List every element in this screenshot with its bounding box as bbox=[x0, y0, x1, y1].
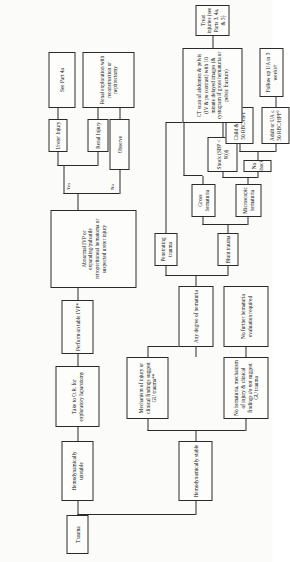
connector bbox=[184, 175, 203, 176]
node-hemodynamically-unstable[interactable]: Hemodynamically unstable bbox=[62, 441, 94, 501]
node-or-label: Take to O.R. for exploratory laparotomy bbox=[71, 368, 84, 425]
connector bbox=[78, 427, 79, 441]
connector bbox=[203, 224, 226, 225]
connector bbox=[148, 430, 226, 431]
connector bbox=[166, 123, 167, 233]
node-penetrating-label: Penetrating trauma bbox=[159, 235, 172, 264]
connector bbox=[148, 347, 149, 357]
connector bbox=[223, 123, 224, 137]
node-unstable-label: Hemodynamically unstable bbox=[71, 443, 84, 499]
connector bbox=[196, 276, 197, 286]
node-ureter-injury[interactable]: Ureter Injury bbox=[49, 119, 68, 152]
node-shock-label: Shock (SBP < 90)§ bbox=[216, 139, 225, 170]
connector bbox=[223, 172, 224, 178]
connector bbox=[196, 501, 197, 515]
node-no-further-evaluation[interactable]: No further hematuria evaluation required bbox=[224, 286, 226, 347]
connector bbox=[58, 108, 59, 119]
connector bbox=[78, 354, 79, 366]
node-mechanism-label: Mechanism of injury or clinical findings… bbox=[138, 359, 158, 417]
connector bbox=[78, 514, 196, 515]
node-mechanism-of-injury[interactable]: Mechanism of injury or clinical findings… bbox=[127, 357, 169, 419]
connector bbox=[203, 176, 204, 184]
node-renal-exploration[interactable]: Renal exploration with reconstruction or… bbox=[83, 52, 135, 108]
connector bbox=[64, 166, 65, 174]
node-stable-label: Hemodynamically stable bbox=[192, 445, 199, 498]
node-renal-exploration-label: Renal exploration with reconstruction or… bbox=[99, 54, 119, 106]
node-gross-hematuria[interactable]: Gross hematuria bbox=[192, 184, 216, 217]
connector bbox=[196, 431, 197, 441]
connector bbox=[78, 194, 79, 210]
node-trauma-label: Trauma bbox=[74, 526, 81, 542]
node-renal-injury[interactable]: Renal Injury bbox=[88, 119, 109, 152]
node-perform-on-table-ivp[interactable]: Perform on table IVP* bbox=[62, 300, 94, 354]
node-abnormal-ivp[interactable]: Abnormal IVP or expanding/pulsatile retr… bbox=[51, 210, 137, 288]
node-take-to-or[interactable]: Take to O.R. for exploratory laparotomy bbox=[56, 366, 100, 427]
node-see-part-4a[interactable]: See Part 4a bbox=[49, 52, 76, 108]
node-observe-label: Observe bbox=[116, 136, 123, 154]
node-blunt-trauma[interactable]: Blunt trauma bbox=[218, 233, 226, 266]
node-treat-label: Treat injuries (see Parts 3, 4a, & 5) bbox=[199, 7, 225, 34]
connector bbox=[203, 217, 204, 225]
connector bbox=[78, 288, 79, 300]
connector bbox=[98, 152, 99, 166]
connector bbox=[184, 123, 185, 176]
flowchart-canvas: Trauma Hemodynamically unstable Take to … bbox=[48, 0, 226, 562]
node-see-part-4a-label: See Part 4a bbox=[59, 68, 66, 92]
node-gross-label: Gross hematuria bbox=[197, 186, 210, 215]
connector bbox=[58, 152, 59, 166]
connector bbox=[196, 347, 197, 357]
connector bbox=[120, 170, 121, 194]
node-any-hematuria-label: Any degree of hematuria bbox=[193, 290, 200, 343]
node-observe[interactable]: Observe bbox=[110, 119, 130, 170]
connector bbox=[166, 122, 183, 123]
edge-label-no: No bbox=[110, 183, 115, 191]
connector bbox=[120, 108, 121, 119]
node-ct-scan[interactable]: CT scan of abdomen & pelvis (IV & po con… bbox=[183, 48, 226, 123]
connector bbox=[166, 275, 226, 276]
node-ivp-label: Perform on table IVP* bbox=[74, 303, 81, 351]
node-ct-label: CT scan of abdomen & pelvis (IV & po con… bbox=[196, 50, 225, 121]
node-abnormal-ivp-label: Abnormal IVP or expanding/pulsatile retr… bbox=[80, 212, 107, 286]
edge-label-yes: Yes bbox=[66, 182, 71, 191]
node-hemodynamically-stable[interactable]: Hemodynamically stable bbox=[179, 441, 213, 501]
connector bbox=[213, 36, 214, 48]
node-trauma[interactable]: Trauma bbox=[67, 515, 89, 554]
node-no-hematuria[interactable]: No hematuria, mechanism of injury & clin… bbox=[224, 357, 226, 419]
connector bbox=[166, 266, 167, 276]
node-ureter-injury-label: Ureter Injury bbox=[55, 122, 62, 150]
node-penetrating-trauma[interactable]: Penetrating trauma bbox=[155, 233, 178, 266]
connector bbox=[98, 108, 99, 119]
connector bbox=[148, 419, 149, 431]
node-treat-injuries[interactable]: Treat injuries (see Parts 3, 4a, & 5) bbox=[196, 5, 226, 36]
node-renal-injury-label: Renal Injury bbox=[95, 122, 102, 149]
node-any-degree-of-hematuria[interactable]: Any degree of hematuria bbox=[179, 286, 214, 347]
connector bbox=[64, 174, 65, 194]
connector bbox=[64, 193, 120, 194]
connector bbox=[78, 501, 79, 515]
node-shock[interactable]: Shock (SBP < 90)§ bbox=[208, 137, 226, 172]
